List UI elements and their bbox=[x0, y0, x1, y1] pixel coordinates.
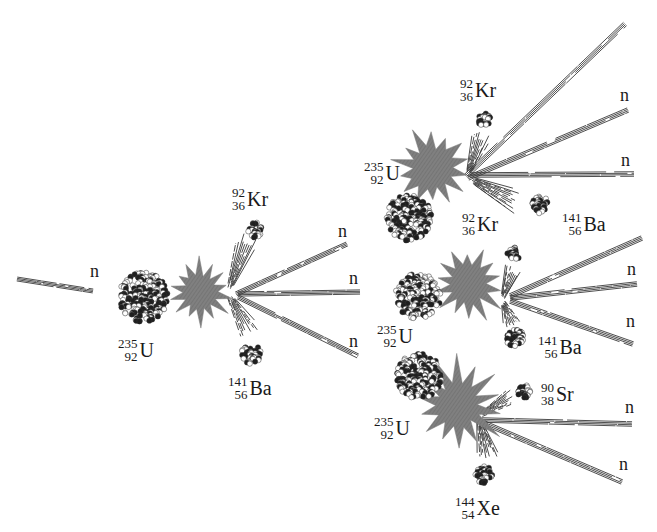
barium-label-top: 14156 Ba bbox=[562, 211, 606, 237]
neutron-label: n bbox=[619, 455, 628, 473]
barium-nucleus-initial bbox=[240, 345, 264, 367]
barium-nucleus-top bbox=[530, 194, 550, 216]
proton-particle bbox=[126, 304, 131, 309]
proton-particle bbox=[409, 395, 414, 400]
atomic-number: 36 bbox=[462, 224, 475, 237]
uranium-label-middle: 23592 U bbox=[377, 323, 413, 349]
krypton-label-top: 9236 Kr bbox=[460, 77, 496, 103]
element-symbol: U bbox=[396, 418, 410, 438]
proton-particle bbox=[537, 211, 542, 216]
neutron-label: n bbox=[338, 222, 347, 240]
incoming-neutron-label: n bbox=[90, 262, 99, 280]
fission-bursts bbox=[171, 130, 501, 448]
neutron-label: n bbox=[625, 398, 634, 416]
atomic-number: 92 bbox=[371, 173, 384, 186]
krypton-fragment-track bbox=[467, 132, 489, 172]
uranium-nucleus-top bbox=[384, 193, 434, 243]
uranium-label-bottom: 23592 U bbox=[374, 415, 410, 441]
element-symbol: Sr bbox=[556, 384, 574, 404]
neutron-particle bbox=[414, 235, 419, 240]
atomic-number: 56 bbox=[545, 347, 558, 360]
neutron-track bbox=[510, 282, 637, 300]
proton-particle bbox=[162, 307, 167, 312]
proton-particle bbox=[246, 229, 251, 234]
element-symbol: Ba bbox=[584, 214, 606, 234]
neutron-label: n bbox=[627, 260, 636, 278]
barium-label-initial: 14156 Ba bbox=[228, 375, 272, 401]
atomic-number: 54 bbox=[462, 508, 475, 521]
neutron-label: n bbox=[626, 312, 635, 330]
fission-burst-middle bbox=[435, 250, 501, 320]
uranium-nucleus-middle bbox=[394, 272, 443, 321]
incoming-neutron-track bbox=[17, 277, 94, 293]
element-symbol: Ba bbox=[250, 378, 272, 398]
barium-nucleus-middle bbox=[505, 327, 526, 348]
krypton-nucleus-middle bbox=[505, 245, 521, 261]
neutron-track bbox=[483, 421, 623, 484]
proton-particle bbox=[426, 394, 431, 399]
element-symbol: Kr bbox=[247, 189, 268, 209]
proton-particle bbox=[478, 122, 483, 127]
atomic-number: 92 bbox=[381, 428, 394, 441]
neutron-particle bbox=[253, 359, 258, 364]
atomic-number: 92 bbox=[125, 350, 138, 363]
uranium-label-initial: 23592 U bbox=[118, 337, 154, 363]
neutron-particle bbox=[482, 480, 487, 485]
barium-label-middle: 14156 Ba bbox=[538, 334, 582, 360]
neutron-track bbox=[470, 172, 634, 177]
barium-fragment-track bbox=[472, 178, 519, 213]
proton-particle bbox=[429, 379, 434, 384]
element-symbol: Kr bbox=[475, 80, 496, 100]
neutron-particle bbox=[147, 318, 152, 323]
neutron-label: n bbox=[349, 332, 358, 350]
proton-particle bbox=[484, 122, 489, 127]
proton-particle bbox=[423, 314, 428, 319]
neutron-particle bbox=[516, 392, 521, 397]
element-symbol: U bbox=[399, 326, 413, 346]
krypton-fragment-track bbox=[228, 234, 256, 289]
neutron-particle bbox=[129, 312, 134, 317]
fission-burst-initial bbox=[171, 256, 232, 328]
atomic-number: 38 bbox=[541, 394, 554, 407]
element-symbol: Ba bbox=[560, 337, 582, 357]
neutron-track bbox=[235, 242, 348, 296]
atomic-number: 92 bbox=[384, 336, 397, 349]
krypton-label-initial: 9236 Kr bbox=[232, 186, 268, 212]
neutron-particle bbox=[403, 238, 408, 243]
atomic-number: 36 bbox=[460, 90, 473, 103]
element-symbol: Xe bbox=[477, 498, 500, 518]
proton-particle bbox=[392, 232, 397, 237]
neutron-particle bbox=[423, 229, 428, 234]
neutron-track bbox=[482, 418, 632, 426]
fission-burst-top bbox=[391, 130, 468, 202]
strontium-nucleus-bottom bbox=[516, 383, 533, 400]
proton-particle bbox=[411, 316, 416, 321]
proton-particle bbox=[514, 256, 519, 261]
proton-particle bbox=[247, 361, 252, 366]
element-symbol: U bbox=[140, 340, 154, 360]
neutron-particle bbox=[251, 235, 256, 240]
krypton-label-middle: 9236 Kr bbox=[462, 211, 498, 237]
neutron-particle bbox=[119, 305, 124, 310]
proton-particle bbox=[413, 222, 418, 227]
neutron-label: n bbox=[349, 269, 358, 287]
neutron-particle bbox=[155, 314, 160, 319]
proton-particle bbox=[512, 343, 517, 348]
particle-tracks bbox=[17, 22, 643, 484]
neutron-label: n bbox=[621, 151, 630, 169]
neutron-particle bbox=[522, 395, 527, 400]
uranium-label-top: 23592 U bbox=[364, 160, 400, 186]
atomic-number: 36 bbox=[232, 199, 245, 212]
neutron-particle bbox=[421, 394, 426, 399]
barium-fragment-track bbox=[502, 301, 521, 328]
neutron-particle bbox=[137, 319, 142, 324]
strontium-label-bottom: 9038 Sr bbox=[541, 381, 574, 407]
krypton-nucleus-top bbox=[476, 111, 492, 127]
atomic-number: 56 bbox=[235, 388, 248, 401]
element-symbol: Kr bbox=[477, 214, 498, 234]
atomic-number: 56 bbox=[569, 224, 582, 237]
xenon-nucleus-bottom bbox=[473, 464, 495, 486]
neutron-particle bbox=[429, 302, 434, 307]
proton-particle bbox=[123, 311, 128, 316]
neutron-track bbox=[238, 290, 360, 296]
